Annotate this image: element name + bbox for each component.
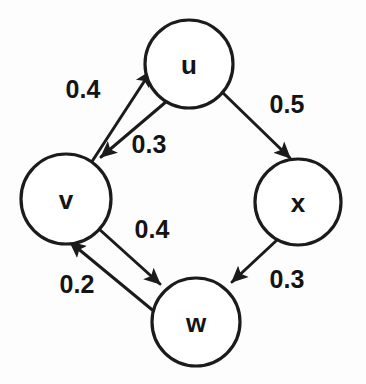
edge-weight-x-w: 0.3 [270,265,305,293]
weighted-graph-figure: u v x w 0.4 0.3 0.5 0.4 0.2 0.3 [0,0,366,384]
edge-weight-u-x: 0.5 [270,90,305,118]
edge-weight-v-w: 0.4 [135,215,170,243]
node-label-w: w [185,308,207,338]
node-label-x: x [291,188,306,218]
graph-canvas: u v x w 0.4 0.3 0.5 0.4 0.2 0.3 [0,0,366,384]
node-label-u: u [181,50,197,80]
edge-weight-w-v: 0.2 [60,270,95,298]
edge-weight-u-v: 0.3 [132,130,167,158]
node-label-v: v [59,185,74,215]
edge-weight-v-u: 0.4 [66,75,101,103]
